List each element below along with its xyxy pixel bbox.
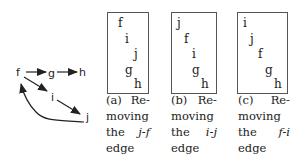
order-item: g xyxy=(125,64,133,76)
dependency-graph: f g h i j xyxy=(0,0,105,159)
ordering-box-b: j f i g h xyxy=(171,12,217,94)
edge-f-i xyxy=(24,77,47,91)
order-item: j xyxy=(250,33,254,45)
order-item: h xyxy=(274,78,282,90)
node-g: g xyxy=(48,68,55,79)
node-j: j xyxy=(86,112,89,123)
caption-c: (c)Re- moving thef-i edge xyxy=(238,92,290,156)
order-item: i xyxy=(192,48,196,60)
order-item: f xyxy=(118,17,122,29)
order-item: j xyxy=(177,17,181,29)
order-item: g xyxy=(265,64,273,76)
order-item: h xyxy=(201,78,209,90)
order-item: j xyxy=(134,48,138,60)
ordering-box-a: f i j g h xyxy=(107,12,149,94)
order-item: i xyxy=(243,17,247,29)
order-item: h xyxy=(134,78,142,90)
order-item: i xyxy=(125,33,129,45)
order-item: f xyxy=(184,33,188,45)
ordering-box-c: i j f g h xyxy=(237,12,288,94)
order-item: g xyxy=(192,64,200,76)
caption-a: (a)Re- moving thej-f edge xyxy=(106,92,150,156)
node-h: h xyxy=(79,67,86,78)
node-i: i xyxy=(51,92,54,103)
order-item: f xyxy=(258,48,262,60)
node-f: f xyxy=(16,67,20,78)
caption-b: (b)Re- moving thei-j edge xyxy=(171,92,217,156)
edge-i-j xyxy=(57,100,80,114)
